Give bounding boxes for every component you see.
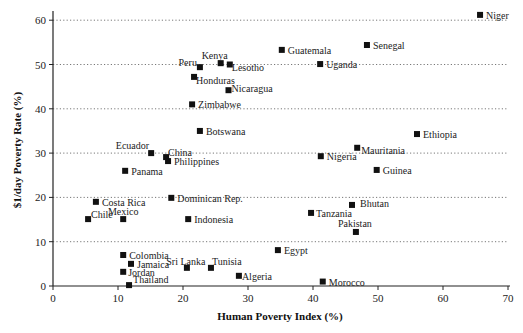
square-marker-icon: [374, 167, 380, 173]
y-tick-label: 60: [35, 14, 47, 26]
data-point: Indonesia: [185, 214, 233, 225]
point-label: Thailand: [133, 274, 169, 285]
point-label: Algeria: [242, 271, 273, 282]
y-tick-label: 40: [35, 103, 47, 115]
square-marker-icon: [122, 168, 128, 174]
data-point: Botswana: [197, 126, 246, 137]
x-tick-label: 70: [503, 292, 515, 304]
square-marker-icon: [279, 47, 285, 53]
point-label: Ecuador: [116, 140, 150, 151]
data-point: Guinea: [374, 165, 412, 176]
y-axis-ticks: 0102030405060: [35, 14, 53, 292]
data-point: Mauritania: [354, 145, 405, 156]
square-marker-icon: [275, 247, 281, 253]
point-label: Sri Lanka: [166, 256, 206, 267]
point-label: Panama: [131, 166, 163, 177]
x-tick-label: 0: [50, 292, 56, 304]
y-tick-label: 20: [35, 191, 47, 203]
data-point: Nicaragua: [226, 83, 274, 94]
data-point: Nigeria: [318, 151, 358, 162]
x-tick-label: 40: [308, 292, 320, 304]
x-axis-title: Human Poverty Index (%): [217, 310, 343, 323]
y-axis-title: $1/day Poverty Rate (%): [11, 91, 24, 208]
data-point: Uganda: [317, 59, 358, 70]
square-marker-icon: [308, 210, 314, 216]
data-point: Philippines: [165, 156, 219, 167]
square-marker-icon: [197, 64, 203, 70]
data-point: Bhutan: [349, 198, 389, 209]
data-point: Dominican Rep.: [168, 193, 243, 204]
point-label: Honduras: [196, 75, 235, 86]
point-label: Lesotho: [232, 62, 264, 73]
y-tick-label: 10: [35, 236, 47, 248]
square-marker-icon: [189, 101, 195, 107]
point-label: Zimbabwe: [198, 99, 241, 110]
square-marker-icon: [364, 42, 370, 48]
point-label: Niger: [486, 10, 509, 21]
x-tick-label: 50: [373, 292, 385, 304]
square-marker-icon: [168, 195, 174, 201]
point-label: Nicaragua: [232, 83, 274, 94]
data-point: Peru: [179, 57, 203, 70]
y-tick-label: 0: [41, 280, 47, 292]
point-label: Tunisia: [212, 256, 242, 267]
data-point: Panama: [122, 166, 163, 177]
point-label: Bhutan: [360, 198, 389, 209]
data-point: Honduras: [191, 74, 235, 86]
y-tick-label: 30: [35, 147, 47, 159]
y-tick-label: 50: [35, 59, 47, 71]
point-label: Egypt: [284, 245, 308, 256]
point-label: Guinea: [383, 165, 412, 176]
point-label: Uganda: [326, 59, 358, 70]
point-label: Kenya: [202, 50, 229, 61]
square-marker-icon: [93, 199, 99, 205]
square-marker-icon: [126, 282, 132, 288]
data-point: Pakistan: [338, 218, 372, 235]
square-marker-icon: [354, 145, 360, 151]
point-label: Nigeria: [327, 151, 358, 162]
square-marker-icon: [165, 158, 171, 164]
x-tick-label: 30: [243, 292, 255, 304]
point-label: Indonesia: [194, 214, 233, 225]
square-marker-icon: [197, 128, 203, 134]
data-point: Sri Lanka: [166, 256, 206, 271]
data-point: Niger: [477, 10, 509, 21]
square-marker-icon: [320, 279, 326, 285]
point-label: Morocco: [329, 277, 365, 288]
data-point: Lesotho: [227, 62, 264, 73]
data-point: Ecuador: [116, 140, 154, 156]
x-tick-label: 20: [178, 292, 190, 304]
data-point: Kenya: [202, 50, 229, 66]
scatter-chart: 010203040506070 0102030405060 NigerSeneg…: [0, 0, 523, 333]
x-tick-label: 60: [438, 292, 450, 304]
square-marker-icon: [120, 269, 126, 275]
data-point: Ethiopia: [414, 129, 457, 140]
square-marker-icon: [477, 12, 483, 18]
square-marker-icon: [120, 252, 126, 258]
data-point: Egypt: [275, 245, 308, 256]
point-label: Botswana: [206, 126, 246, 137]
square-marker-icon: [318, 153, 324, 159]
data-points: NigerSenegalGuatemalaUgandaKenyaLesothoP…: [85, 10, 509, 288]
point-label: Pakistan: [338, 218, 372, 229]
square-marker-icon: [185, 216, 191, 222]
point-label: Peru: [179, 57, 197, 68]
data-point: Tunisia: [208, 256, 242, 271]
data-point: Algeria: [236, 271, 273, 282]
x-axis-ticks: 010203040506070: [50, 286, 514, 304]
point-label: Senegal: [373, 40, 405, 51]
point-label: Mexico: [108, 206, 139, 217]
point-label: Guatemala: [288, 45, 332, 56]
square-marker-icon: [317, 61, 323, 67]
point-label: Ethiopia: [423, 129, 457, 140]
x-tick-label: 10: [113, 292, 125, 304]
data-point: Senegal: [364, 40, 405, 51]
point-label: Mauritania: [361, 145, 405, 156]
square-marker-icon: [353, 229, 359, 235]
point-label: Philippines: [174, 156, 219, 167]
data-point: Guatemala: [279, 45, 332, 56]
point-label: Dominican Rep.: [177, 193, 243, 204]
square-marker-icon: [414, 131, 420, 137]
